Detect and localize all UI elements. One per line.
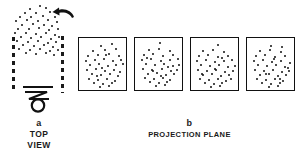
data-point — [232, 70, 234, 72]
data-point — [38, 27, 41, 30]
data-point — [15, 20, 17, 22]
data-point — [273, 58, 275, 60]
data-point — [221, 57, 223, 59]
data-point — [161, 68, 163, 70]
data-point — [85, 60, 88, 63]
data-point — [28, 28, 30, 30]
projection-frame-1 — [78, 37, 127, 91]
data-point — [120, 59, 122, 61]
data-point — [172, 54, 174, 56]
data-point — [108, 53, 110, 55]
data-point — [199, 78, 202, 81]
data-point — [163, 63, 166, 66]
data-point — [198, 55, 200, 57]
data-point — [29, 8, 31, 10]
data-point — [35, 53, 37, 55]
data-point — [274, 78, 276, 80]
data-point — [19, 16, 22, 19]
data-point — [270, 83, 272, 85]
data-point — [51, 25, 54, 28]
data-point — [33, 45, 35, 47]
data-point — [200, 64, 202, 66]
data-point — [261, 82, 263, 84]
data-point — [176, 69, 178, 71]
data-point — [285, 74, 287, 76]
data-point — [227, 55, 229, 57]
data-point — [259, 74, 261, 76]
data-point — [218, 64, 221, 67]
data-point — [45, 7, 47, 9]
data-point — [227, 66, 229, 68]
data-point — [280, 51, 282, 53]
data-point — [91, 73, 94, 76]
data-point — [27, 41, 29, 43]
data-point — [115, 48, 117, 50]
data-point — [288, 70, 290, 72]
data-point — [43, 24, 45, 26]
data-point — [24, 12, 27, 15]
data-point — [117, 75, 120, 78]
data-point — [107, 65, 109, 67]
data-point — [217, 56, 220, 59]
data-point — [43, 44, 45, 46]
data-point — [86, 69, 88, 71]
panel-a-caption-line1: TOP — [0, 130, 78, 139]
scatter-area — [79, 38, 126, 90]
data-point — [266, 65, 269, 68]
data-point — [256, 78, 259, 81]
data-point — [54, 34, 56, 36]
data-point — [22, 44, 25, 47]
data-point — [210, 86, 212, 88]
observer-eye-icon — [19, 80, 57, 114]
data-point — [219, 85, 221, 87]
scatter-area — [135, 38, 182, 90]
data-point — [262, 59, 264, 61]
data-point — [170, 70, 173, 73]
data-point — [35, 33, 37, 35]
data-point — [118, 55, 120, 57]
data-point — [104, 70, 107, 73]
data-point — [281, 46, 283, 48]
data-point — [255, 55, 257, 57]
data-point — [265, 73, 267, 75]
data-point — [162, 77, 164, 79]
data-point — [144, 77, 147, 80]
data-point — [268, 86, 270, 88]
data-point — [52, 46, 55, 49]
data-point — [101, 67, 103, 69]
data-point — [201, 73, 203, 75]
data-point — [20, 36, 22, 38]
data-point — [150, 58, 153, 61]
data-point — [214, 61, 216, 63]
panel-b-letter: b — [76, 119, 303, 129]
data-point — [148, 49, 150, 51]
data-point — [18, 48, 20, 50]
data-point — [159, 42, 162, 45]
data-point — [109, 73, 111, 75]
data-point — [223, 51, 226, 54]
data-point — [221, 82, 224, 85]
data-point — [104, 49, 107, 52]
data-point — [264, 54, 267, 57]
data-point — [169, 79, 172, 82]
data-point — [284, 66, 286, 68]
data-point — [89, 64, 91, 66]
data-point — [212, 49, 214, 51]
data-point — [98, 63, 101, 66]
data-point — [21, 24, 24, 27]
data-point — [57, 49, 59, 51]
data-point — [209, 65, 211, 67]
data-point — [55, 41, 57, 43]
data-point — [224, 71, 227, 74]
data-point — [281, 71, 284, 74]
data-point — [48, 29, 50, 31]
scatter-area — [247, 38, 294, 90]
data-point — [50, 38, 52, 40]
data-point — [279, 82, 282, 85]
data-point — [106, 78, 109, 81]
data-point — [220, 75, 222, 77]
data-point — [153, 78, 155, 80]
data-point — [94, 59, 96, 61]
data-point — [100, 45, 103, 48]
data-point — [152, 70, 155, 73]
